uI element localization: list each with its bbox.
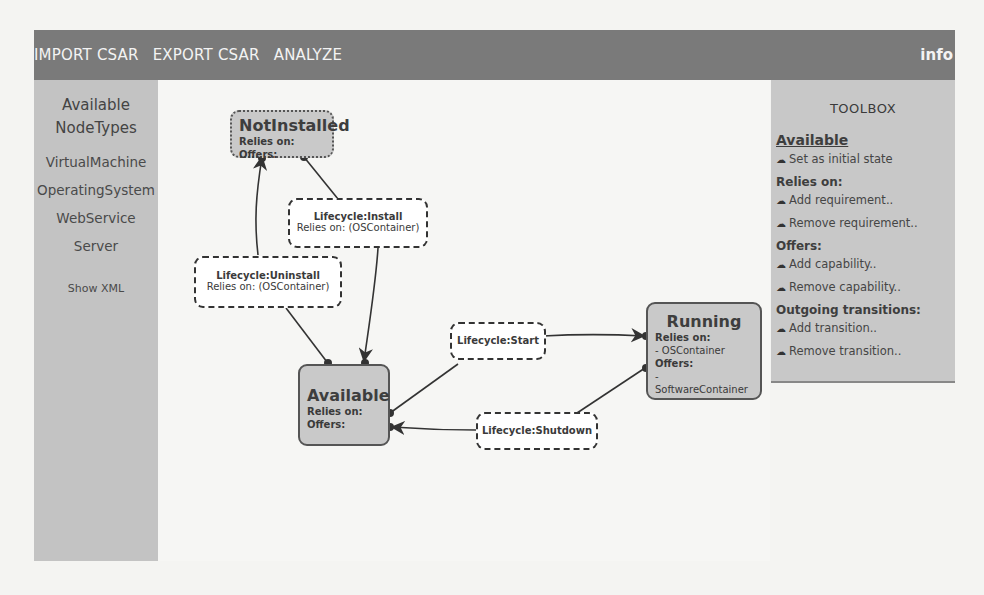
cloud-icon: ☁ [776, 259, 786, 270]
offers-heading: Offers: [776, 239, 955, 253]
relies-on-label: Relies on: [655, 331, 753, 344]
nodetype-operatingsystem[interactable]: OperatingSystem [34, 176, 158, 204]
add-transition-label: Add transition.. [789, 321, 877, 335]
menu-group: IMPORT CSAR EXPORT CSAR ANALYZE [34, 30, 356, 80]
add-requirement-label: Add requirement.. [789, 193, 893, 207]
cloud-icon: ☁ [776, 195, 786, 206]
diagram-canvas[interactable]: NotInstalled Relies on: Offers: Lifecycl… [158, 80, 770, 561]
state-notinstalled[interactable]: NotInstalled Relies on: Offers: [230, 110, 334, 158]
relies-on-label: Relies on: [307, 405, 381, 418]
remove-transition-label: Remove transition.. [789, 344, 901, 358]
state-name: Running [655, 312, 753, 331]
edge-install-available [364, 248, 378, 361]
cloud-icon: ☁ [776, 218, 786, 229]
edge-notinstalled-install [304, 157, 338, 199]
nodetype-virtualmachine[interactable]: VirtualMachine [34, 148, 158, 176]
outgoing-transitions-heading: Outgoing transitions: [776, 303, 955, 317]
import-csar-button[interactable]: IMPORT CSAR [34, 46, 139, 64]
top-menu-bar: IMPORT CSAR EXPORT CSAR ANALYZE info [34, 30, 955, 80]
nodetype-list: VirtualMachine OperatingSystem WebServic… [34, 148, 158, 260]
show-xml-link[interactable]: Show XML [34, 282, 158, 295]
app-window: IMPORT CSAR EXPORT CSAR ANALYZE info Ava… [34, 30, 955, 561]
transition-name: Lifecycle:Install [290, 211, 426, 222]
add-requirement-button[interactable]: ☁Add requirement.. [776, 189, 955, 212]
remove-capability-label: Remove capability.. [789, 280, 901, 294]
offers-label: Offers: [655, 357, 753, 370]
sidebar-title-line2: NodeTypes [34, 117, 158, 140]
state-running[interactable]: Running Relies on: - OSContainer Offers:… [646, 302, 762, 400]
transition-shutdown[interactable]: Lifecycle:Shutdown [476, 412, 598, 450]
transition-relies: Relies on: (OSContainer) [290, 222, 426, 233]
edge-running-shutdown [574, 368, 645, 415]
remove-transition-button[interactable]: ☁Remove transition.. [776, 340, 955, 363]
edge-available-start [390, 364, 458, 413]
state-available[interactable]: Available Relies on: Offers: [298, 364, 390, 446]
transition-name: Lifecycle:Start [452, 324, 544, 358]
sidebar-title-line1: Available [34, 94, 158, 117]
transition-install[interactable]: Lifecycle:Install Relies on: (OSContaine… [288, 198, 428, 248]
edge-shutdown-available [392, 427, 476, 430]
add-capability-label: Add capability.. [789, 257, 877, 271]
analyze-button[interactable]: ANALYZE [274, 46, 342, 64]
transition-name: Lifecycle:Uninstall [196, 270, 340, 281]
cloud-icon: ☁ [776, 282, 786, 293]
sidebar-title: Available NodeTypes [34, 94, 158, 140]
edge-uninstall-notinstalled [256, 157, 262, 255]
cloud-icon: ☁ [776, 154, 786, 165]
set-initial-state-button[interactable]: ☁Set as initial state [776, 148, 955, 171]
remove-capability-button[interactable]: ☁Remove capability.. [776, 276, 955, 299]
offers-value: - SoftwareContainer [655, 370, 753, 396]
nodetype-server[interactable]: Server [34, 232, 158, 260]
nodetypes-sidebar: Available NodeTypes VirtualMachine Opera… [34, 80, 158, 561]
relies-on-heading: Relies on: [776, 175, 955, 189]
remove-requirement-button[interactable]: ☁Remove requirement.. [776, 212, 955, 235]
offers-label: Offers: [239, 148, 325, 161]
transition-uninstall[interactable]: Lifecycle:Uninstall Relies on: (OSContai… [194, 256, 342, 308]
toolbox-title: TOOLBOX [771, 101, 955, 116]
export-csar-button[interactable]: EXPORT CSAR [153, 46, 260, 64]
cloud-icon: ☁ [776, 346, 786, 357]
set-initial-label: Set as initial state [789, 152, 893, 166]
info-button[interactable]: info [920, 30, 953, 80]
transition-name: Lifecycle:Shutdown [478, 414, 596, 448]
relies-on-label: Relies on: [239, 135, 325, 148]
state-name: NotInstalled [239, 116, 325, 135]
cloud-icon: ☁ [776, 323, 786, 334]
edge-available-uninstall [286, 308, 327, 362]
remove-requirement-label: Remove requirement.. [789, 216, 918, 230]
transition-start[interactable]: Lifecycle:Start [450, 322, 546, 360]
relies-on-value: - OSContainer [655, 344, 753, 357]
selected-state-name: Available [776, 132, 955, 148]
add-transition-button[interactable]: ☁Add transition.. [776, 317, 955, 340]
transition-relies: Relies on: (OSContainer) [196, 281, 340, 292]
toolbox-panel: TOOLBOX Available ☁Set as initial state … [771, 80, 955, 383]
add-capability-button[interactable]: ☁Add capability.. [776, 253, 955, 276]
edge-start-running [543, 335, 644, 337]
nodetype-webservice[interactable]: WebService [34, 204, 158, 232]
offers-label: Offers: [307, 418, 381, 431]
state-name: Available [307, 386, 381, 405]
